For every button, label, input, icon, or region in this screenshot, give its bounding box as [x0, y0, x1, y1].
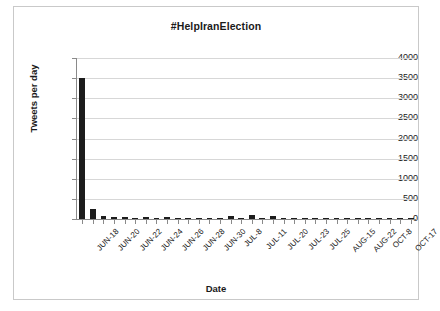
- bar: [122, 217, 128, 219]
- y-tick-mark: [72, 159, 76, 160]
- chart-title: #HelpIranElection: [14, 20, 418, 32]
- bar: [334, 218, 340, 219]
- y-tick-mark: [72, 139, 76, 140]
- x-tick-label: JUN-20: [116, 227, 142, 253]
- bar: [312, 218, 318, 219]
- x-axis-line: [76, 219, 416, 220]
- bar: [281, 218, 287, 219]
- bar: [397, 218, 403, 219]
- bar: [175, 218, 181, 219]
- x-tick-mark: [82, 220, 83, 224]
- x-tick-mark: [390, 220, 391, 224]
- x-tick-mark: [188, 220, 189, 224]
- x-tick-mark: [305, 220, 306, 224]
- gridline: [77, 179, 416, 180]
- gridlines: [77, 58, 416, 219]
- x-tick-mark: [178, 220, 179, 224]
- y-tick-mark: [72, 199, 76, 200]
- x-tick-mark: [135, 220, 136, 224]
- x-tick-mark: [114, 220, 115, 224]
- x-tick-label: OCT-17: [413, 227, 439, 253]
- x-tick-mark: [231, 220, 232, 224]
- bar: [79, 78, 85, 219]
- x-tick-mark: [167, 220, 168, 224]
- x-tick-mark: [347, 220, 348, 224]
- x-tick-label: JUL-11: [264, 227, 288, 251]
- x-tick-mark: [93, 220, 94, 224]
- bar: [249, 215, 255, 219]
- x-tick-mark: [252, 220, 253, 224]
- x-tick-mark: [209, 220, 210, 224]
- x-tick-mark: [284, 220, 285, 224]
- y-tick-mark: [72, 78, 76, 79]
- bar: [228, 216, 234, 219]
- x-tick-mark: [220, 220, 221, 224]
- bar: [196, 218, 202, 219]
- x-axis-title: Date: [14, 283, 418, 294]
- x-tick-label: AUG-15: [350, 227, 377, 254]
- bar: [111, 217, 117, 219]
- y-tick-mark: [72, 98, 76, 99]
- gridline: [77, 118, 416, 119]
- bar: [101, 216, 107, 219]
- bar: [302, 218, 308, 219]
- bar: [365, 218, 371, 219]
- x-tick-label: JUN-18: [95, 227, 121, 253]
- y-tick-mark: [72, 118, 76, 119]
- gridline: [77, 98, 416, 99]
- bar: [259, 218, 265, 219]
- bar: [143, 217, 149, 219]
- gridline: [77, 58, 416, 59]
- x-tick-mark: [273, 220, 274, 224]
- x-tick-mark: [262, 220, 263, 224]
- x-tick-mark: [156, 220, 157, 224]
- x-tick-mark: [379, 220, 380, 224]
- x-tick-mark: [400, 220, 401, 224]
- bar: [291, 218, 297, 219]
- bar: [387, 218, 393, 219]
- x-tick-label: JUL-25: [328, 227, 353, 252]
- x-tick-mark: [103, 220, 104, 224]
- y-axis-title: Tweets per day: [28, 54, 39, 144]
- x-tick-label: JUN-24: [159, 227, 185, 253]
- x-tick-label: JUL-20: [286, 227, 311, 252]
- x-tick-mark: [241, 220, 242, 224]
- bar: [270, 216, 276, 219]
- bar: [344, 218, 350, 219]
- bar: [164, 217, 170, 219]
- bar: [376, 218, 382, 219]
- x-tick-label: JUN-26: [180, 227, 206, 253]
- x-tick-mark: [199, 220, 200, 224]
- y-tick-mark: [72, 219, 76, 220]
- x-tick-mark: [411, 220, 412, 224]
- gridline: [77, 159, 416, 160]
- bar: [207, 218, 213, 219]
- gridline: [77, 199, 416, 200]
- x-tick-label: JUN-22: [138, 227, 164, 253]
- x-tick-mark: [146, 220, 147, 224]
- bar: [217, 218, 223, 219]
- x-tick-mark: [337, 220, 338, 224]
- x-tick-label: JUL-23: [307, 227, 332, 252]
- gridline: [77, 78, 416, 79]
- chart-frame: #HelpIranElection Tweets per day 0500100…: [13, 6, 419, 300]
- bar: [185, 218, 191, 219]
- bar: [408, 218, 414, 219]
- x-tick-mark: [315, 220, 316, 224]
- bar: [90, 209, 96, 219]
- x-tick-mark: [294, 220, 295, 224]
- x-tick-mark: [368, 220, 369, 224]
- plot-area: [77, 58, 416, 219]
- x-tick-mark: [358, 220, 359, 224]
- gridline: [77, 139, 416, 140]
- x-tick-label: JUN-28: [201, 227, 227, 253]
- bar: [154, 218, 160, 219]
- bar: [238, 218, 244, 219]
- bar: [323, 218, 329, 219]
- y-tick-mark: [72, 58, 76, 59]
- bar: [355, 218, 361, 219]
- x-tick-mark: [125, 220, 126, 224]
- bar: [132, 218, 138, 219]
- x-tick-mark: [326, 220, 327, 224]
- y-tick-mark: [72, 179, 76, 180]
